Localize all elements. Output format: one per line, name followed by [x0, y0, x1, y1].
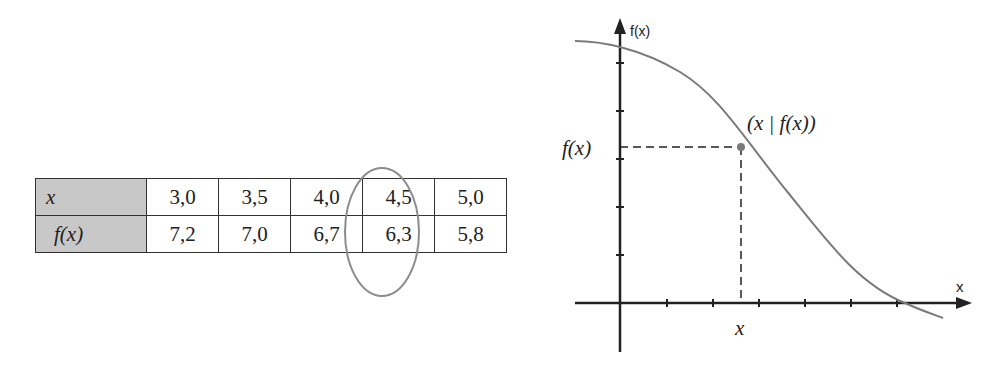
x-axis-arrow-icon [956, 297, 972, 309]
marked-point [737, 143, 745, 151]
x-marker-label: x [734, 316, 745, 340]
y-axis-label: f(x) [630, 23, 650, 39]
y-axis-arrow-icon [614, 18, 626, 34]
y-marker-label: f(x) [562, 136, 591, 160]
graph: f(x) x (x | f(x)) f(x) x [0, 0, 983, 365]
function-curve [575, 41, 943, 318]
highlight-ellipse [345, 168, 419, 296]
point-label: (x | f(x)) [747, 111, 816, 135]
x-axis-label: x [956, 278, 964, 295]
